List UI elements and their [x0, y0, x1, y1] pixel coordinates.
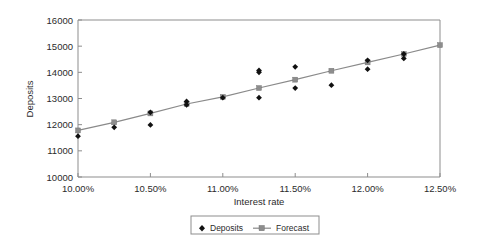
deposits-data-point — [292, 64, 298, 70]
deposits-data-point — [111, 124, 117, 130]
forecast-data-point — [329, 68, 334, 73]
chart-legend: Deposits Forecast — [191, 216, 319, 234]
y-tick-label: 15000 — [47, 41, 73, 52]
deposits-vs-interest-rate-chart: 10000110001200013000140001500016000 10.0… — [0, 0, 478, 250]
deposits-data-point — [329, 82, 335, 88]
x-tick-label: 12.00% — [351, 183, 384, 194]
forecast-data-point — [112, 120, 117, 125]
legend-label-forecast: Forecast — [276, 223, 310, 233]
forecast-data-point — [76, 128, 81, 133]
legend-square-icon — [259, 225, 264, 230]
forecast-series — [76, 43, 443, 133]
x-tick-label: 12.50% — [424, 183, 457, 194]
deposits-data-point — [256, 95, 262, 101]
forecast-data-point — [257, 86, 262, 91]
forecast-data-point — [293, 77, 298, 82]
y-axis-title: Deposits — [24, 80, 35, 117]
y-tick-label: 12000 — [47, 119, 73, 130]
x-tick-label: 11.00% — [207, 183, 239, 194]
y-tick-label: 14000 — [47, 67, 73, 78]
x-axis-tick-labels: 10.00%10.50%11.00%11.50%12.00%12.50% — [62, 183, 457, 194]
chart-container: 10000110001200013000140001500016000 10.0… — [0, 0, 478, 250]
deposits-data-point — [292, 85, 298, 91]
y-tick-label: 16000 — [47, 15, 73, 26]
y-tick-label: 13000 — [47, 93, 73, 104]
x-axis-title: Interest rate — [234, 196, 285, 207]
deposits-data-point — [365, 66, 371, 72]
x-tick-label: 10.50% — [134, 183, 167, 194]
deposits-data-point — [148, 122, 154, 128]
y-tick-label: 11000 — [47, 145, 73, 156]
x-tick-label: 10.00% — [62, 183, 95, 194]
y-axis-tick-labels: 10000110001200013000140001500016000 — [47, 15, 73, 183]
deposits-data-point — [75, 133, 81, 139]
x-tick-label: 11.50% — [279, 183, 311, 194]
forecast-data-point — [438, 43, 443, 48]
y-tick-label: 10000 — [47, 172, 73, 183]
legend-label-deposits: Deposits — [210, 223, 243, 233]
